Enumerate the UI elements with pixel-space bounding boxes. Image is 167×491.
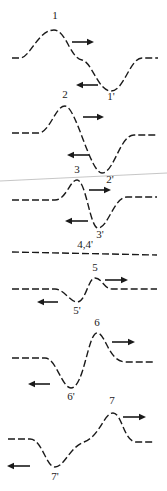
positive-pulse-label: 1 xyxy=(52,9,58,21)
positive-pulse-label: 7 xyxy=(109,394,115,406)
right-arrow-icon xyxy=(105,277,128,283)
left-arrow-icon xyxy=(37,299,58,305)
string-waveform xyxy=(12,30,158,91)
wave-frame-2: 22' xyxy=(12,88,157,185)
positive-pulse-label: 6 xyxy=(94,316,100,328)
left-arrow-icon xyxy=(28,381,50,387)
scan-artifact-line xyxy=(0,173,167,181)
right-arrow-icon xyxy=(83,114,104,120)
frame-label: 4,4' xyxy=(77,238,93,250)
wave-frame-6: 66' xyxy=(12,316,155,402)
positive-pulse-label: 3 xyxy=(74,163,80,175)
right-arrow-icon xyxy=(123,414,146,420)
left-arrow-icon xyxy=(67,152,89,158)
negative-pulse-label: 5' xyxy=(73,304,81,316)
wave-frame-5: 55' xyxy=(12,261,157,316)
string-waveform xyxy=(8,413,153,467)
string-waveform xyxy=(12,278,157,302)
negative-pulse-label: 1' xyxy=(107,90,115,102)
string-waveform xyxy=(12,333,155,388)
wave-frame-7: 77' xyxy=(7,394,153,482)
wave-frame-4: 4,4' xyxy=(12,238,157,255)
string-waveform xyxy=(12,106,157,173)
left-arrow-icon xyxy=(76,82,98,88)
left-arrow-icon xyxy=(7,463,30,469)
negative-pulse-label: 2' xyxy=(106,173,114,185)
right-arrow-icon xyxy=(72,39,94,45)
left-arrow-icon xyxy=(65,218,88,224)
string-waveform xyxy=(12,252,157,255)
right-arrow-icon xyxy=(89,187,111,193)
positive-pulse-label: 5 xyxy=(92,261,98,273)
right-arrow-icon xyxy=(112,339,135,345)
negative-pulse-label: 6' xyxy=(67,390,75,402)
negative-pulse-label: 3' xyxy=(96,228,104,240)
negative-pulse-label: 7' xyxy=(51,470,59,482)
positive-pulse-label: 2 xyxy=(62,88,68,100)
wave-frame-1: 11' xyxy=(12,9,158,102)
pulse-reflection-diagram: 11'22'33'4,4'55'66'77' xyxy=(0,0,167,491)
wave-frames: 11'22'33'4,4'55'66'77' xyxy=(7,9,158,482)
